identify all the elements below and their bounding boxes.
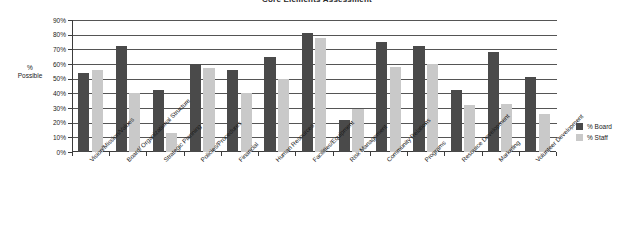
x-axis-tick-mark [333, 152, 334, 156]
legend-swatch-board-icon [576, 123, 583, 130]
bar-staff[interactable] [427, 64, 438, 152]
legend-swatch-staff-icon [576, 134, 583, 141]
y-axis-tick-label: 20% [32, 119, 66, 126]
bar-staff[interactable] [92, 70, 103, 152]
x-axis-tick-mark [370, 152, 371, 156]
x-axis-tick-mark [519, 152, 520, 156]
x-axis-tick-mark [556, 152, 557, 156]
y-axis-tick-label: 0% [32, 149, 66, 156]
x-axis-tick-mark [295, 152, 296, 156]
x-axis-tick-mark [146, 152, 147, 156]
chart-legend: % Board % Staff [576, 122, 634, 144]
x-axis-tick-mark [72, 152, 73, 156]
y-axis-tick-label: 30% [32, 105, 66, 112]
y-axis-tick-label: 10% [32, 134, 66, 141]
y-axis-tick-label: 50% [32, 75, 66, 82]
x-axis-tick-mark [407, 152, 408, 156]
bar-staff[interactable] [203, 68, 214, 152]
legend-label-staff: % Staff [587, 134, 608, 141]
bar-board[interactable] [525, 77, 536, 152]
x-axis-tick-mark [221, 152, 222, 156]
bar-board[interactable] [190, 64, 201, 152]
bar-board[interactable] [78, 73, 89, 152]
x-axis-tick-mark [184, 152, 185, 156]
y-axis-tick-label: 40% [32, 90, 66, 97]
x-axis-tick-mark [109, 152, 110, 156]
plot-wrapper: 90%80%70%60%50%40%30%20%10%0% Vision/Mis… [72, 20, 556, 152]
bars-layer [72, 20, 556, 152]
bar-board[interactable] [264, 57, 275, 152]
y-axis-tick-label: 70% [32, 46, 66, 53]
x-axis-tick-mark [258, 152, 259, 156]
legend-label-board: % Board [587, 123, 612, 130]
y-axis-tick-label: 60% [32, 61, 66, 68]
bar-board[interactable] [227, 70, 238, 152]
x-axis-tick-mark [482, 152, 483, 156]
y-axis-tick-label: 90% [32, 17, 66, 24]
x-axis-tick-mark [444, 152, 445, 156]
bar-board[interactable] [451, 90, 462, 152]
legend-item-staff[interactable]: % Staff [576, 133, 634, 141]
bar-staff[interactable] [278, 79, 289, 152]
chart-container: Core Elements Assessment % Possible 90%8… [0, 0, 634, 238]
y-axis-tick-label: 80% [32, 31, 66, 38]
chart-title: Core Elements Assessment [0, 0, 634, 3]
legend-item-board[interactable]: % Board [576, 122, 634, 130]
bar-staff[interactable] [315, 38, 326, 152]
bar-staff[interactable] [390, 67, 401, 152]
